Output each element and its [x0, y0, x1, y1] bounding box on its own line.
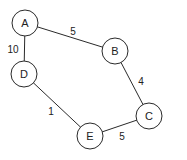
graph-svg: ABCDE 510415 — [0, 0, 187, 160]
node-label: E — [86, 130, 93, 142]
edge-weight-b-c: 4 — [138, 76, 144, 87]
node-label: D — [20, 68, 28, 80]
node-d: D — [11, 61, 37, 87]
node-b: B — [102, 38, 128, 64]
edge-d-e — [24, 74, 90, 136]
graph-diagram: ABCDE 510415 — [0, 0, 187, 160]
edge-weight-a-b: 5 — [70, 26, 76, 37]
edge-weight-e-c: 5 — [119, 131, 125, 142]
edge-weight-a-d: 10 — [7, 44, 19, 55]
node-label: B — [111, 45, 118, 57]
edges-layer — [24, 23, 149, 136]
node-a: A — [12, 10, 38, 36]
edge-weight-d-e: 1 — [48, 106, 54, 117]
node-e: E — [77, 123, 103, 149]
node-label: A — [21, 17, 29, 29]
node-label: C — [145, 110, 153, 122]
node-c: C — [136, 103, 162, 129]
